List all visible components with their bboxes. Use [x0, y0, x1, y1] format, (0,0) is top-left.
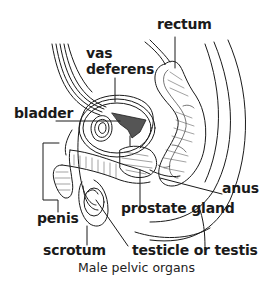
label-vas-deferens-line1: vas	[86, 46, 112, 61]
label-testicle: testicle or testis	[132, 243, 258, 258]
label-prostate-gland: prostate gland	[121, 201, 235, 216]
label-anus: anus	[222, 181, 259, 196]
figure-caption: Male pelvic organs	[0, 260, 273, 275]
bladder-organ	[79, 99, 155, 157]
label-bladder: bladder	[14, 106, 73, 121]
penis-organ	[53, 150, 150, 198]
label-vas-deferens-line2: deferens	[86, 62, 154, 77]
label-penis: penis	[37, 211, 79, 226]
label-scrotum: scrotum	[43, 243, 106, 258]
label-rectum: rectum	[157, 17, 212, 32]
prostate-organ	[120, 146, 180, 177]
